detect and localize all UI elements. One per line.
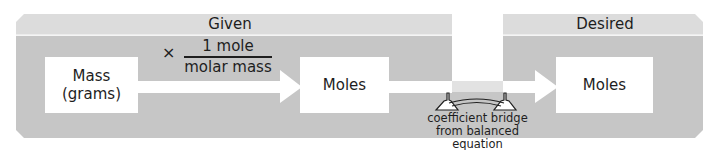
conversion-numerator: 1 mole <box>184 38 272 54</box>
desired-moles-label: Moles <box>583 76 626 94</box>
mass-grams-box: Mass (grams) <box>45 57 138 113</box>
given-moles-box: Moles <box>300 57 389 113</box>
given-panel-label: Given <box>200 15 260 33</box>
bridge-strip <box>452 81 503 92</box>
desired-moles-box: Moles <box>556 57 653 113</box>
conversion-factor: × 1 mole molar mass <box>162 38 274 78</box>
bridge-caption: coefficient bridge from balanced equatio… <box>410 112 545 150</box>
multiply-icon: × <box>162 45 175 61</box>
given-moles-label: Moles <box>323 76 366 94</box>
grams-label: (grams) <box>62 85 121 103</box>
conversion-denominator: molar mass <box>184 59 272 75</box>
desired-panel-label: Desired <box>570 15 640 33</box>
mass-label: Mass <box>62 67 121 85</box>
bridge-caption-line2: from balanced equation <box>410 125 545 150</box>
